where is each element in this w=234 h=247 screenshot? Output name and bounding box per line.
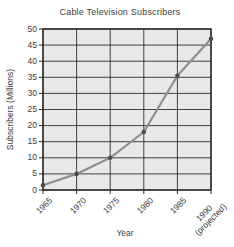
data-point [142,130,147,135]
data-point [209,36,214,41]
data-point [108,156,113,161]
y-tick-label: 25 [13,104,37,115]
data-point [175,73,180,78]
y-tick-label: 35 [13,72,37,83]
x-axis-title: Year [20,228,230,238]
y-tick-label: 30 [13,88,37,99]
y-tick-label: 50 [13,24,37,35]
data-point [74,172,79,177]
y-tick-label: 10 [13,152,37,163]
data-point [41,183,46,188]
y-tick-label: 45 [13,40,37,51]
y-tick-label: 0 [13,185,37,196]
chart-panel: Cable Television Subscribers Subscribers… [0,0,234,247]
y-tick-label: 40 [13,56,37,67]
y-tick-label: 5 [13,168,37,179]
y-tick-label: 15 [13,136,37,147]
y-tick-label: 20 [13,120,37,131]
